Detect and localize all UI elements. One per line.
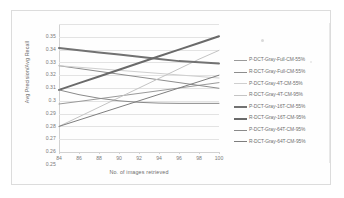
x-tick-mark: [59, 152, 60, 154]
y-tick-label: 0.25: [46, 162, 56, 167]
legend-swatch-icon: [234, 141, 247, 142]
x-tick-mark: [99, 152, 100, 154]
series-lines: [59, 24, 219, 152]
x-tick-label: 90: [116, 156, 122, 161]
x-tick-label: 92: [136, 156, 142, 161]
x-tick-mark: [79, 152, 80, 154]
legend-item[interactable]: P-DCT-Gray-4T-CM-55%: [234, 78, 330, 90]
x-axis-tick-labels: 8486889092949698100: [59, 156, 219, 164]
y-tick-label: 0.3: [49, 98, 56, 103]
y-tick-label: 0.31: [46, 86, 56, 91]
y-tick-label: 0.28: [46, 124, 56, 129]
y-tick-label: 0.35: [46, 34, 56, 39]
legend-label: R-DCT-Gray-16T-CM-95%: [249, 116, 306, 121]
legend-swatch-icon: [234, 83, 247, 84]
legend-swatch-icon: [234, 60, 247, 61]
scan-speck: [261, 39, 264, 42]
legend-item[interactable]: P-DCT-Gray-16T-CM-55%: [234, 101, 330, 113]
chart-legend: P-DCT-Gray-Full-CM-55%R-DCT-Gray-Full-CM…: [234, 55, 330, 148]
legend-item[interactable]: R-DCT-Gray-Full-CM-55%: [234, 67, 330, 79]
legend-label: P-DCT-Gray-Full-CM-55%: [249, 58, 305, 63]
legend-label: P-DCT-Gray-64T-CM-95%: [249, 128, 305, 133]
legend-label: P-DCT-Gray-16T-CM-55%: [249, 105, 305, 110]
x-tick-label: 94: [156, 156, 162, 161]
plot-area: [59, 24, 219, 152]
legend-swatch-icon: [234, 118, 247, 120]
y-tick-label: 0.33: [46, 60, 56, 65]
x-tick-label: 96: [176, 156, 182, 161]
series-line: [59, 36, 219, 90]
x-tick-label: 86: [76, 156, 82, 161]
series-line: [59, 66, 219, 78]
y-axis-tick-labels: 0.250.260.270.280.290.30.310.320.330.340…: [12, 24, 56, 152]
legend-swatch-icon: [234, 130, 247, 131]
y-tick-label: 0.27: [46, 137, 56, 142]
legend-swatch-icon: [234, 106, 247, 108]
x-tick-mark: [219, 152, 220, 154]
chart-frame: Avg Precision/Avg Recall 0.250.260.270.2…: [11, 10, 331, 185]
legend-item[interactable]: P-DCT-Gray-64T-CM-95%: [234, 125, 330, 137]
legend-label: P-DCT-Gray-4T-CM-55%: [249, 82, 303, 87]
legend-divider: [329, 23, 330, 163]
x-axis-title: No. of images retrieved: [59, 169, 219, 175]
x-tick-mark: [159, 152, 160, 154]
series-line: [59, 66, 219, 89]
legend-label: R-DCT-Gray-4T-CM-95%: [249, 93, 303, 98]
x-tick-mark: [199, 152, 200, 154]
y-tick-label: 0.32: [46, 73, 56, 78]
series-line: [59, 48, 219, 63]
x-tick-label: 84: [56, 156, 62, 161]
y-tick-label: 0.29: [46, 111, 56, 116]
legend-item[interactable]: R-DCT-Gray-16T-CM-95%: [234, 113, 330, 125]
legend-swatch-icon: [234, 72, 247, 73]
legend-item[interactable]: P-DCT-Gray-Full-CM-55%: [234, 55, 330, 67]
x-tick-mark: [119, 152, 120, 154]
x-tick-mark: [139, 152, 140, 154]
x-tick-label: 88: [96, 156, 102, 161]
scan-speck: [310, 61, 312, 63]
x-tick-label: 98: [196, 156, 202, 161]
legend-item[interactable]: R-DCT-Gray-64T-CM-95%: [234, 136, 330, 148]
x-tick-label: 100: [215, 156, 224, 161]
legend-swatch-icon: [234, 95, 247, 96]
y-tick-label: 0.26: [46, 150, 56, 155]
legend-label: R-DCT-Gray-64T-CM-95%: [249, 140, 306, 145]
legend-label: R-DCT-Gray-Full-CM-55%: [249, 70, 305, 75]
y-tick-label: 0.34: [46, 47, 56, 52]
x-tick-mark: [179, 152, 180, 154]
legend-item[interactable]: R-DCT-Gray-4T-CM-95%: [234, 90, 330, 102]
